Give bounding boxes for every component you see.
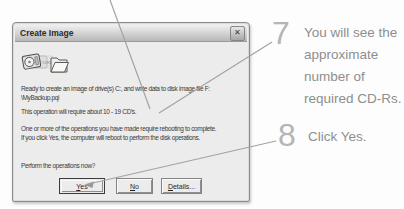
step-7-number: 7 bbox=[272, 17, 290, 49]
drive-image-icon: 1389 bbox=[21, 48, 69, 80]
reboot-line-1: One or more of the operations you have m… bbox=[21, 124, 216, 133]
close-button[interactable]: ✕ bbox=[230, 26, 245, 41]
cd-estimate-text: This operation will require about 10 - 1… bbox=[21, 107, 136, 116]
create-image-dialog: Create Image ✕ 1389 bbox=[12, 22, 250, 202]
folder-shape bbox=[51, 58, 69, 72]
message-line-2: \MyBackup.pqi bbox=[21, 93, 210, 102]
step-8-line-1: Click Yes. bbox=[308, 126, 367, 148]
message-text: Ready to create an image of drive(s) C:,… bbox=[21, 84, 210, 102]
dialog-title: Create Image bbox=[20, 28, 73, 38]
icon-digits: 1389 bbox=[42, 60, 52, 65]
yes-button-label: es bbox=[80, 183, 87, 190]
step-7-line-4: required CD-Rs. bbox=[304, 88, 402, 110]
step-7-line-1: You will see the bbox=[304, 22, 402, 44]
close-icon: ✕ bbox=[231, 27, 244, 39]
hard-disk-shape bbox=[22, 54, 41, 70]
no-button[interactable]: No bbox=[116, 178, 153, 194]
page: Create Image ✕ 1389 bbox=[0, 0, 404, 209]
confirm-question: Perform the operations now? bbox=[21, 161, 95, 170]
reboot-line-2: If you click Yes, the computer will rebo… bbox=[21, 133, 216, 142]
details-button-label: etails... bbox=[173, 183, 195, 190]
step-8-number: 8 bbox=[278, 119, 296, 151]
no-button-label: o bbox=[135, 183, 139, 190]
details-button[interactable]: Details... bbox=[161, 178, 202, 194]
step-7-line-2: approximate bbox=[304, 44, 402, 66]
step-8-text: Click Yes. bbox=[308, 126, 367, 148]
dialog-titlebar[interactable]: Create Image ✕ bbox=[15, 25, 247, 42]
yes-button[interactable]: Yes bbox=[59, 178, 105, 194]
step-7-text: You will see the approximate number of r… bbox=[304, 22, 402, 110]
message-line-1: Ready to create an image of drive(s) C:,… bbox=[21, 84, 210, 93]
step-7-line-3: number of bbox=[304, 66, 402, 88]
reboot-text: One or more of the operations you have m… bbox=[21, 124, 216, 142]
